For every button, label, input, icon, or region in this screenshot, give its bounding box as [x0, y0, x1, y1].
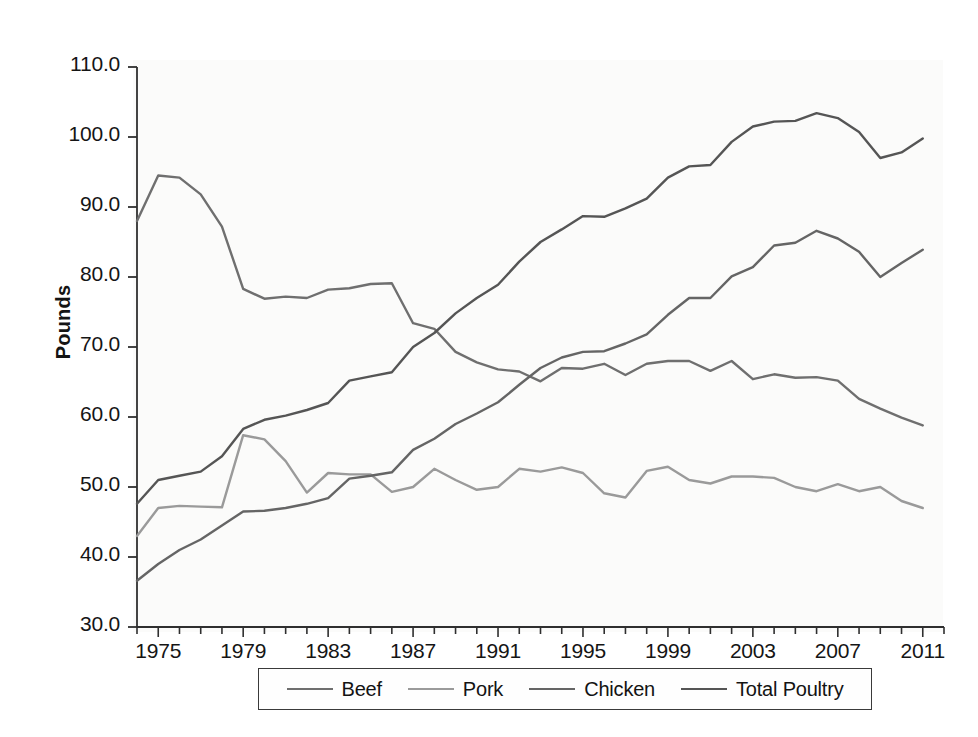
x-axis-tick-label: 1999 — [628, 639, 708, 663]
legend-line-swatch — [408, 688, 454, 690]
y-axis-tick-label: 110.0 — [24, 52, 120, 76]
series-line-total-poultry — [137, 113, 923, 504]
y-axis-tick-label: 70.0 — [24, 332, 120, 356]
x-axis-tick-label: 1975 — [118, 639, 198, 663]
x-axis-tick-label: 2011 — [883, 639, 963, 663]
series-line-chicken — [137, 231, 923, 581]
legend-item-total-poultry[interactable]: Total Poultry — [668, 678, 856, 701]
chart-legend: BeefPorkChickenTotal Poultry — [258, 668, 872, 710]
legend-item-label: Pork — [463, 678, 503, 701]
legend-line-swatch — [681, 688, 727, 690]
line-chart-plot-area — [0, 0, 978, 737]
y-axis-tick-label: 80.0 — [24, 262, 120, 286]
y-axis-tick-label: 40.0 — [24, 542, 120, 566]
legend-line-swatch — [287, 688, 333, 690]
poultry-meat-consumption-chart: Pounds 110.0100.090.080.070.060.050.040.… — [0, 0, 978, 737]
x-axis-tick-label: 1995 — [543, 639, 623, 663]
legend-item-label: Beef — [342, 678, 382, 701]
x-axis-tick-label: 2007 — [798, 639, 878, 663]
y-axis-tick-label: 90.0 — [24, 192, 120, 216]
legend-item-label: Chicken — [584, 678, 655, 701]
y-axis-tick-label: 100.0 — [24, 122, 120, 146]
y-axis-tick-label: 60.0 — [24, 402, 120, 426]
x-axis-tick-label: 1991 — [458, 639, 538, 663]
series-line-pork — [137, 435, 923, 536]
series-line-beef — [137, 176, 923, 426]
legend-item-beef[interactable]: Beef — [274, 678, 395, 701]
legend-item-label: Total Poultry — [736, 678, 843, 701]
y-axis-tick-label: 50.0 — [24, 472, 120, 496]
y-axis-tick-label: 30.0 — [24, 612, 120, 636]
x-axis-tick-label: 2003 — [713, 639, 793, 663]
legend-item-chicken[interactable]: Chicken — [516, 678, 668, 701]
x-axis-tick-label: 1987 — [373, 639, 453, 663]
legend-line-swatch — [529, 688, 575, 690]
x-axis-tick-label: 1979 — [203, 639, 283, 663]
x-axis-tick-label: 1983 — [288, 639, 368, 663]
legend-item-pork[interactable]: Pork — [395, 678, 516, 701]
